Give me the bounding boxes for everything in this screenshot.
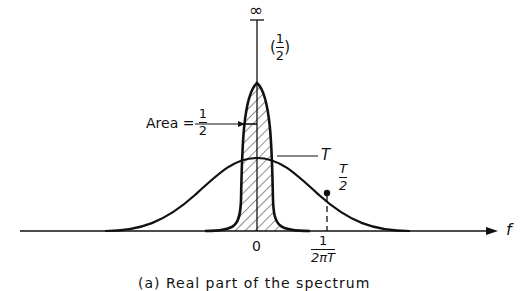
infinity-label: ∞	[249, 2, 263, 19]
peak-value-numerator: 1	[276, 32, 284, 46]
marker-numerator: 1	[319, 234, 327, 248]
peak-value-fraction: 12	[276, 32, 284, 63]
half-value-denominator: 2	[339, 179, 347, 193]
area-label: Area = 12	[146, 107, 207, 138]
area-label-prefix: Area =	[146, 115, 199, 131]
area-numerator: 1	[199, 107, 207, 121]
f-axis-label: f	[506, 222, 512, 238]
half-value-label: T2	[339, 162, 347, 193]
peak-value-annotation: (12)	[270, 32, 290, 63]
half-value-fraction: T2	[339, 162, 347, 193]
broad-peak-label: T	[321, 148, 330, 163]
marker-denominator: 2πT	[311, 251, 335, 265]
f-axis-arrow-icon	[486, 227, 498, 235]
marker-fraction: 12πT	[311, 234, 335, 265]
half-point-dot	[324, 190, 330, 196]
origin-label: 0	[252, 239, 261, 253]
area-denominator: 2	[199, 124, 207, 138]
half-value-numerator: T	[339, 162, 347, 176]
figure-caption: (a) Real part of the spectrum	[138, 276, 370, 290]
marker-label: 12πT	[311, 234, 335, 265]
area-fraction: 12	[199, 107, 207, 138]
paren-close: )	[284, 38, 290, 56]
peak-value-denominator: 2	[276, 49, 284, 63]
